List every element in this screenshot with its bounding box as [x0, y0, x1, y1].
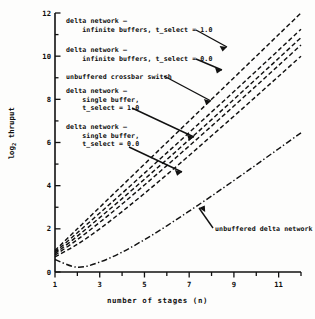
y-tick-label-8: 8 — [39, 95, 51, 104]
y-tick-label-12: 12 — [39, 9, 51, 18]
y-tick-label-0: 0 — [39, 268, 51, 277]
y-axis-title-sub: 2 — [11, 143, 17, 146]
x-tick-label-11: 11 — [273, 280, 285, 289]
annotation-unbuffered-delta: unbuffered delta network — [215, 225, 313, 234]
x-tick-label-5: 5 — [138, 280, 150, 289]
annotation-delta-infinite-1: delta network — infinite buffers, t_sele… — [66, 17, 213, 34]
leader-delta-single-1 — [132, 108, 194, 137]
curve-5 — [55, 133, 301, 268]
y-axis-ticks — [55, 13, 61, 272]
annotation-delta-single-0: delta network — single buffer, t_select … — [66, 123, 139, 149]
annotation-crossbar: unbuffered crossbar switch — [66, 73, 172, 82]
x-tick-label-7: 7 — [183, 280, 195, 289]
leader-unbuffered-delta — [199, 208, 213, 228]
y-tick-label-2: 2 — [39, 224, 51, 233]
x-axis-title: number of stages (n) — [0, 296, 315, 305]
annotation-delta-infinite-0: delta network — infinite buffers, t_sele… — [66, 46, 213, 63]
leader-delta-single-0 — [129, 147, 182, 172]
figure-container: log2 thruput number of stages (n) delta … — [0, 0, 315, 319]
x-tick-label-3: 3 — [94, 280, 106, 289]
x-tick-label-1: 1 — [49, 280, 61, 289]
y-tick-label-4: 4 — [39, 181, 51, 190]
x-tick-label-9: 9 — [228, 280, 240, 289]
x-axis-ticks — [55, 272, 301, 278]
y-axis-title: log2 thruput — [7, 95, 17, 171]
y-tick-label-6: 6 — [39, 138, 51, 147]
y-tick-label-10: 10 — [39, 52, 51, 61]
y-axis-title-main: log — [7, 146, 16, 159]
y-axis-title-rest: thruput — [7, 107, 16, 143]
annotation-delta-single-1: delta network — single buffer, t_select … — [66, 87, 139, 113]
